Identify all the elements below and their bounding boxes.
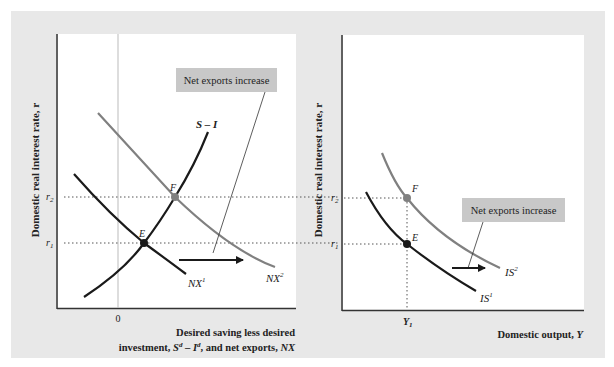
- point-f-right: [403, 194, 411, 202]
- zero-tick-label: 0: [116, 313, 121, 324]
- y1-tick: Y1: [403, 316, 413, 329]
- right-y-axis-label: Domestic real interest rate, r: [312, 103, 324, 237]
- r2-tick-right: r2: [331, 192, 339, 205]
- r1-tick-left: r1: [46, 237, 53, 250]
- point-e-left: [140, 239, 148, 247]
- label-f-right: F: [411, 183, 419, 194]
- left-y-axis-label: Domestic real interest rate, r: [29, 103, 41, 237]
- r2-tick-left: r2: [46, 191, 54, 204]
- label-e-left: E: [138, 228, 145, 239]
- r1-tick-right: r1: [331, 238, 338, 251]
- point-f-left: [171, 193, 179, 201]
- left-callout-text: Net exports increase: [184, 75, 270, 86]
- label-s-minus-i: S – I: [196, 118, 218, 130]
- right-x-axis-label: Domestic output, Y: [498, 329, 585, 340]
- point-e-right: [403, 240, 411, 248]
- left-x-axis-label-line1: Desired saving less desired: [176, 327, 295, 338]
- right-panel: Net exports increase F E IS2 IS1 r2 r1 Y…: [312, 35, 585, 340]
- left-panel: Net exports increase F E S – I NX1 NX2 r…: [29, 34, 340, 353]
- right-callout-text: Net exports increase: [471, 205, 557, 216]
- label-f-left: F: [169, 182, 177, 193]
- left-x-axis-label-line2: investment, Sd – Id, and net exports, NX: [119, 341, 296, 353]
- label-e-right: E: [411, 232, 418, 243]
